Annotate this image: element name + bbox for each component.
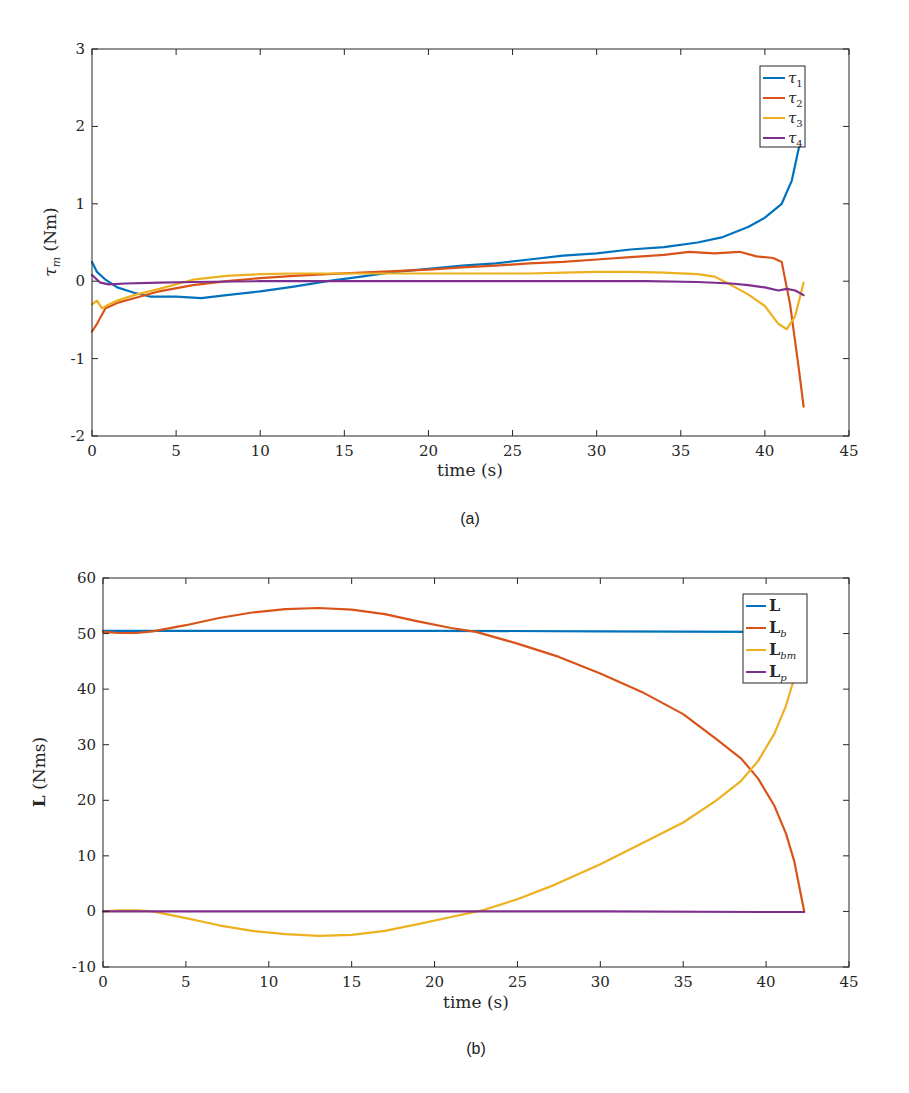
x-tick-label: 30 — [587, 442, 606, 460]
y-tick-label: 2 — [75, 117, 85, 135]
legend-entry: L — [769, 596, 780, 615]
x-tick-label: 40 — [755, 442, 774, 460]
y-tick-label: -2 — [70, 427, 85, 445]
x-tick-label: 30 — [591, 973, 610, 991]
x-tick-label: 45 — [839, 442, 858, 460]
x-tick-label: 25 — [508, 973, 527, 991]
x-tick-label: 0 — [87, 442, 97, 460]
y-tick-label: 50 — [77, 625, 96, 643]
plot-b-axes-box — [103, 578, 849, 967]
x-tick-label: 10 — [259, 973, 278, 991]
y-tick-label: 0 — [75, 272, 85, 290]
plot-a-y-ticks: -2-10123 — [70, 40, 849, 445]
x-tick-label: 5 — [181, 973, 191, 991]
y-tick-label: -1 — [70, 350, 85, 368]
plot-a-torque: 051015202530354045 -2-10123 time (s) τm … — [40, 40, 859, 527]
y-tick-label: 0 — [86, 902, 96, 920]
plot-a-ylabel: τm (Nm) — [40, 207, 63, 277]
x-tick-label: 5 — [171, 442, 181, 460]
y-tick-label: 60 — [77, 569, 96, 587]
y-tick-label: 3 — [75, 40, 85, 58]
y-tick-label: 30 — [77, 736, 96, 754]
plot-a-legend: τ1τ2τ3τ4 — [760, 66, 805, 149]
x-tick-label: 35 — [671, 442, 690, 460]
plot-a-lines — [92, 125, 804, 407]
y-tick-label: 40 — [77, 680, 96, 698]
y-tick-label: 20 — [77, 791, 96, 809]
plot-b-xlabel: time (s) — [443, 992, 509, 1012]
series-line-1 — [92, 125, 804, 298]
x-tick-label: 25 — [503, 442, 522, 460]
x-tick-label: 45 — [839, 973, 858, 991]
series-line-1 — [103, 631, 804, 632]
figure: 051015202530354045 -2-10123 time (s) τm … — [0, 0, 909, 1093]
plot-a-axes-box — [92, 49, 849, 436]
x-tick-label: 20 — [425, 973, 444, 991]
plot-b-caption: (b) — [466, 1040, 486, 1057]
x-tick-label: 35 — [674, 973, 693, 991]
x-tick-label: 40 — [757, 973, 776, 991]
plot-a-xlabel: time (s) — [437, 460, 503, 480]
x-tick-label: 0 — [98, 973, 108, 991]
y-tick-label: 1 — [75, 195, 85, 213]
series-line-2 — [103, 608, 804, 911]
x-tick-label: 15 — [342, 973, 361, 991]
x-tick-label: 15 — [335, 442, 354, 460]
x-tick-label: 10 — [251, 442, 270, 460]
y-tick-label: 10 — [77, 847, 96, 865]
plot-b-lines — [103, 608, 804, 936]
plot-a-caption: (a) — [460, 510, 480, 527]
series-line-4 — [103, 911, 804, 912]
x-tick-label: 20 — [419, 442, 438, 460]
plot-a-x-ticks: 051015202530354045 — [87, 49, 858, 460]
series-line-3 — [103, 632, 804, 936]
plot-b-angular-momentum: 051015202530354045 -100102030405060 time… — [29, 569, 859, 1057]
plot-b-ylabel: L (Nms) — [29, 737, 49, 807]
y-tick-label: -10 — [72, 958, 96, 976]
plot-b-legend: LLbLbmLp — [743, 594, 807, 683]
